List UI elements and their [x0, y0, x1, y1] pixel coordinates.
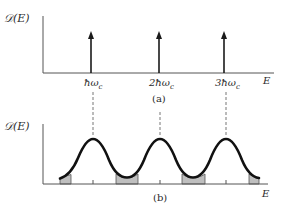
panel-a-caption: (a) [152, 93, 166, 104]
panel-b-y-label: 𝒟(E) [4, 120, 30, 133]
arrowhead-icon [88, 31, 94, 39]
landau-levels-diagram: 𝒟(E) ħωc 2ħωc 3ħωc E (a) 𝒟(E) [0, 0, 287, 216]
tick-label-1: ħωc [84, 77, 103, 91]
panel-b-x-label: E [261, 188, 270, 199]
dos-curve [60, 139, 259, 179]
arrowhead-icon [221, 31, 227, 39]
tick-label-2: 2ħωc [148, 77, 174, 91]
tick-label-3: 3ħωc [215, 77, 240, 91]
panel-b: 𝒟(E) E (b) [4, 120, 270, 203]
panel-a-y-label: 𝒟(E) [4, 12, 30, 25]
panel-a: 𝒟(E) ħωc 2ħωc 3ħωc E (a) [4, 12, 274, 104]
panel-b-caption: (b) [153, 192, 167, 203]
delta-arrows [88, 31, 227, 73]
arrowhead-icon [156, 31, 162, 39]
panel-a-x-label: E [262, 75, 271, 86]
